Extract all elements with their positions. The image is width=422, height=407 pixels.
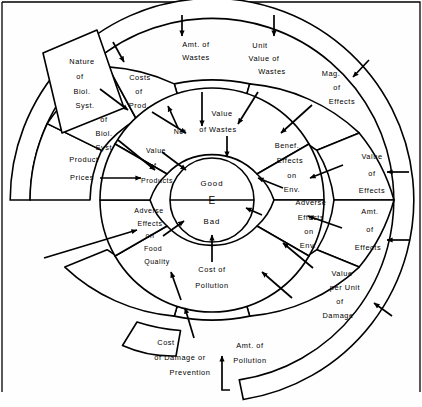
label-benef-1: Effects	[277, 156, 303, 165]
label-nbs-2: Biol.	[73, 87, 90, 96]
label-codp-2: Prevention	[170, 368, 211, 377]
label-benef-0: Benef.	[275, 141, 300, 150]
label-benef-3: Env.	[284, 185, 300, 194]
label-afq-0: Adverse	[134, 207, 164, 214]
label-cop-1: of	[135, 87, 143, 96]
center-bad-label: Bad	[204, 217, 221, 226]
label-aop-1: Pollution	[233, 356, 266, 365]
label-aoe-0: Amt.	[361, 207, 378, 216]
label-afq-1: Effects	[137, 220, 162, 227]
diagram-canvas: Amt. of Wastes Unit Value of Wastes Mag.…	[0, 0, 422, 407]
label-codp-0: Cost	[157, 338, 174, 347]
label-amt-of-wastes-1: Wastes	[182, 53, 210, 62]
label-mag-0: Mag.	[322, 69, 341, 78]
label-adv-env-3: Env.	[300, 241, 316, 250]
arrow-feedback-loop-bottom	[222, 356, 230, 390]
label-voe-1: of	[368, 169, 376, 178]
label-cop-0: Costs	[129, 73, 151, 82]
label-amt-of-wastes-0: Amt. of	[182, 40, 210, 49]
center-good-label: Good	[200, 179, 223, 188]
label-voe-2: Effects	[359, 186, 385, 195]
label-cp-1: Pollution	[195, 281, 228, 290]
label-codp-1: of Damage or	[154, 353, 205, 362]
label-adv-env-0: Adverse	[296, 198, 327, 207]
label-unit-value-wastes-0: Unit	[252, 41, 267, 50]
label-nbs-3: Syst.	[75, 101, 94, 110]
label-pp-0: Product	[69, 155, 98, 164]
label-nvp-3: Products	[141, 177, 173, 184]
center-node[interactable]: Good E Bad	[170, 158, 254, 242]
label-mag-1: of	[333, 83, 341, 92]
label-aoe-1: of	[366, 225, 374, 234]
label-vpud-3: Damage	[322, 311, 353, 320]
label-afq-4: Quality	[144, 258, 170, 266]
label-voe-0: Value	[361, 152, 382, 161]
label-aop-0: Amt. of	[236, 341, 264, 350]
center-e-label: E	[208, 195, 215, 206]
label-vow-1: of Wastes	[199, 125, 237, 134]
label-unit-value-wastes-1: Value of	[249, 54, 280, 63]
label-unit-value-wastes-2: Wastes	[258, 67, 286, 76]
label-afq-3: Food	[144, 245, 162, 252]
label-aoe-2: Effects	[355, 243, 381, 252]
systems-ring-diagram: Amt. of Wastes Unit Value of Wastes Mag.…	[0, 0, 422, 407]
label-afq-2: on	[146, 232, 155, 239]
label-vpud-0: Value	[331, 269, 352, 278]
label-nbs-0: Nature	[69, 57, 94, 66]
label-benef-2: on	[287, 171, 296, 180]
label-obs-2: Biol.	[95, 129, 112, 138]
label-nbs-1: of	[76, 72, 84, 81]
label-cp-0: Cost of	[198, 265, 226, 274]
label-pp-1: Prices	[70, 173, 94, 182]
label-vpud-2: of	[336, 297, 344, 306]
label-vow-0: Value	[211, 109, 232, 118]
label-mag-2: Effects	[329, 97, 355, 106]
label-adv-env-2: on	[304, 227, 313, 236]
label-vpud-1: per Unit	[330, 283, 360, 292]
